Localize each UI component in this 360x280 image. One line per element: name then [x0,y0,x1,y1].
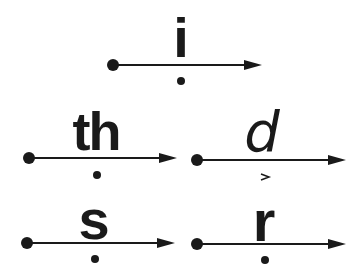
mark-caret-icon [261,174,269,180]
arrowhead-icon [328,239,346,249]
mark-dot-icon [177,77,185,85]
mark-dot-icon [91,255,99,263]
mark-dot-icon [93,171,101,179]
arrowhead-icon [157,238,175,248]
arrowhead-icon [328,155,346,165]
label-r: r [253,192,276,250]
label-s: s [78,192,109,248]
label-d: d [244,104,280,160]
label-th: th [73,104,120,158]
arrowhead-icon [159,153,177,163]
arrowhead-icon [244,60,262,70]
label-i: i [173,10,189,66]
mark-dot-icon [261,256,269,264]
